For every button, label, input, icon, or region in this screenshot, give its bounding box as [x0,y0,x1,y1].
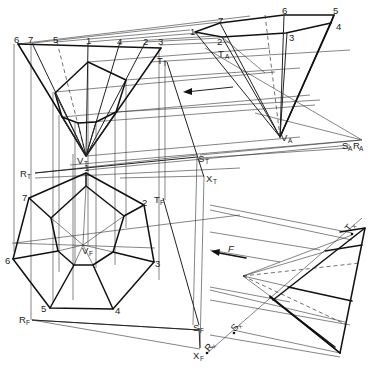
label-top-6: 6 [14,34,19,45]
label-aux-1: 1 [190,26,195,37]
edge-view-labels: T x S x R x F [202,219,358,354]
label-sf-sub: F [200,327,204,334]
label-vf-sub: F [89,250,93,257]
direction-arrow-top [183,87,233,95]
label-va: V [281,132,288,143]
label-top-3: 3 [158,36,163,47]
label-xt: X [206,173,213,184]
label-front-6: 6 [5,255,10,266]
label-top-4: 4 [117,36,122,47]
label-direction-f: F [228,243,235,254]
label-xt-sub: T [213,178,217,185]
label-aux-4: 4 [336,21,341,32]
label-va-sub: A [288,137,293,144]
projection-lines [12,16,362,357]
label-st: S [198,153,204,164]
label-front-4: 4 [115,305,120,316]
label-vf: V [82,245,89,256]
label-front-5: 5 [41,303,46,314]
label-top-5: 5 [53,34,58,45]
top-view [18,42,204,177]
label-ta: T [218,48,224,59]
label-front-2: 2 [142,197,147,208]
label-front-7: 7 [22,192,27,203]
auxiliary-view [195,15,362,140]
label-front-3: 3 [155,258,160,269]
label-front-1: 1 [84,162,89,173]
label-ra-sub: A [359,145,364,152]
label-rf-sub: F [26,319,30,326]
edge-view [206,218,365,354]
label-aux-7: 7 [218,15,223,26]
label-rt-sub: T [27,173,31,180]
label-rf: R [19,314,26,325]
label-tt-sub: T [163,60,167,67]
label-aux-2: 2 [217,36,222,47]
label-top-1: 1 [86,35,91,46]
label-ta-sub: A [225,53,230,60]
label-top-7: 7 [28,34,33,45]
front-view [13,157,204,348]
label-sf: S [193,322,199,333]
label-top-2: 2 [143,36,148,47]
label-vt: V [77,155,84,166]
pyramid-projection-drawing: 6 7 5 1 4 2 3 V T T T R T S T X T 1 7 2 … [0,0,372,370]
label-rt: R [20,168,27,179]
front-view-labels: 1 2 3 4 5 6 7 V F T F R F S F X F [5,162,204,362]
label-aux-5: 5 [333,5,338,16]
label-xf-sub: F [200,355,204,362]
label-aux-6: 6 [282,5,287,16]
label-aux-3: 3 [289,32,294,43]
label-xf: X [193,350,200,361]
auxiliary-view-labels: 1 7 2 6 3 5 4 V A T A S A R A [190,5,364,152]
label-st-sub: T [205,158,209,165]
label-tf-sub: F [160,199,164,206]
